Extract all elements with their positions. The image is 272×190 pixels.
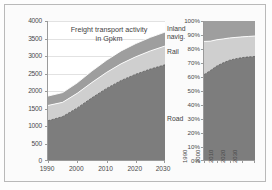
x-axis-label-2010: 2010 — [92, 165, 120, 172]
pct-x-tick-2020 — [242, 160, 243, 163]
y-axis-label-3500: 3500 — [11, 35, 42, 42]
pct-x-axis-label-2010: 2010 — [208, 150, 214, 163]
pct-x-axis-label-2030: 2030 — [232, 150, 238, 163]
pct-label-20: 20% — [179, 129, 200, 136]
x-axis-label-2000: 2000 — [62, 165, 90, 172]
screenshot-root: 4000 3500 3000 2500 2000 1500 1000 500 0 — [0, 0, 272, 190]
pct-label-40: 40% — [179, 101, 200, 108]
pct-x-tick-2000 — [217, 160, 218, 163]
y-axis-label-0: 0 — [11, 157, 42, 164]
pct-label-70: 70% — [179, 59, 200, 66]
x-tick-2020 — [136, 160, 137, 163]
y-axis-label-2000: 2000 — [11, 87, 42, 94]
x-axis-label-2020: 2020 — [121, 165, 149, 172]
y-axis-label-2500: 2500 — [11, 70, 42, 77]
x-tick-2030 — [164, 160, 165, 163]
pct-label-100: 100% — [179, 17, 200, 24]
x-axis-label-2030: 2030 — [149, 165, 177, 172]
pct-label-80: 80% — [179, 45, 200, 52]
pct-label-50: 50% — [179, 87, 200, 94]
absolute-freight-chart: 4000 3500 3000 2500 2000 1500 1000 500 0 — [11, 11, 179, 179]
pct-label-90: 90% — [179, 31, 200, 38]
y-axis-label-1500: 1500 — [11, 105, 42, 112]
pct-x-axis-label-2020: 2020 — [220, 150, 226, 163]
percentage-stacked-areas — [204, 21, 255, 160]
figure-frame: 4000 3500 3000 2500 2000 1500 1000 500 0 — [4, 4, 266, 182]
pct-x-tick-2010 — [230, 160, 231, 163]
percentage-plot-area — [203, 21, 255, 161]
y-axis-label-3000: 3000 — [11, 52, 42, 59]
pct-label-30: 30% — [179, 115, 200, 122]
y-axis-label-500: 500 — [11, 140, 42, 147]
series-label-rail: Rail — [167, 48, 179, 56]
chart-title: Freight transport activity in Gpkm — [57, 25, 161, 43]
y-axis-label-1000: 1000 — [11, 122, 42, 129]
x-tick-2000 — [77, 160, 78, 163]
pct-label-60: 60% — [179, 73, 200, 80]
pct-x-tick-2030 — [254, 160, 255, 163]
percentage-freight-chart: 100% 90% 80% 70% 60% 50% 40% 30% 20% 10%… — [179, 11, 265, 179]
y-axis-label-4000: 4000 — [11, 17, 42, 24]
pct-x-tick-1990 — [204, 160, 205, 163]
pct-x-axis-label-1990: 1990 — [182, 150, 188, 163]
x-tick-2010 — [107, 160, 108, 163]
pct-area-road — [204, 56, 255, 160]
pct-x-axis-label-2000: 2000 — [195, 150, 201, 163]
x-tick-1990 — [48, 160, 49, 163]
x-axis-label-1990: 1990 — [33, 165, 61, 172]
